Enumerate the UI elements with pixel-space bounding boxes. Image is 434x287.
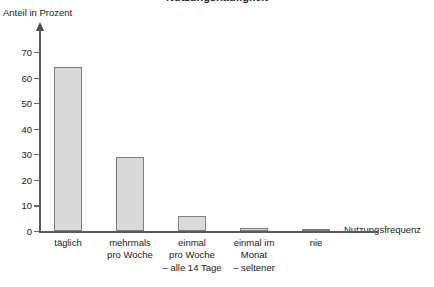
bar [178, 216, 206, 231]
y-tick-mark [34, 129, 39, 130]
y-tick-mark [34, 78, 39, 79]
x-category-label: einmal imMonat– seltener [223, 237, 285, 274]
y-tick-mark [34, 231, 39, 232]
x-category-label: einmalpro Woche– alle 14 Tage [161, 237, 223, 274]
y-tick-label: 40 [21, 123, 32, 134]
chart-title: Nutzungshäufigkeit [0, 0, 434, 3]
y-tick-label: 70 [21, 47, 32, 58]
x-category-label: täglich [37, 237, 99, 249]
y-tick-label: 30 [21, 149, 32, 160]
x-category-label-line: – alle 14 Tage [161, 262, 223, 274]
x-category-label-line: pro Woche [161, 249, 223, 261]
bar [116, 157, 144, 231]
x-category-label-line: pro Woche [99, 249, 161, 261]
y-tick-mark [34, 103, 39, 104]
y-axis-line [39, 30, 41, 232]
x-category-label: nie [285, 237, 347, 249]
bar [240, 228, 268, 231]
plot-area: 010203040506070 [39, 22, 331, 232]
y-tick-label: 20 [21, 174, 32, 185]
y-tick-mark [34, 205, 39, 206]
y-axis-title: Anteil in Prozent [3, 7, 72, 18]
x-axis-title: Nutzungsfrequenz [344, 224, 421, 235]
x-category-label-line: Monat [223, 249, 285, 261]
y-tick-mark [34, 52, 39, 53]
x-category-label-line: – seltener [223, 262, 285, 274]
x-category-label-line: mehrmals [99, 237, 161, 249]
x-category-label-line: einmal [161, 237, 223, 249]
y-tick-label: 0 [27, 226, 32, 237]
bar-chart-figure: Nutzungshäufigkeit Anteil in Prozent Nut… [0, 0, 434, 287]
y-tick-label: 10 [21, 200, 32, 211]
y-tick-label: 60 [21, 72, 32, 83]
bar [54, 67, 82, 231]
x-category-label-line: nie [285, 237, 347, 249]
y-tick-mark [34, 154, 39, 155]
x-category-label-line: einmal im [223, 237, 285, 249]
x-category-label-line: täglich [37, 237, 99, 249]
bar [302, 229, 330, 231]
y-tick-label: 50 [21, 98, 32, 109]
x-category-label: mehrmalspro Woche [99, 237, 161, 262]
y-tick-mark [34, 180, 39, 181]
